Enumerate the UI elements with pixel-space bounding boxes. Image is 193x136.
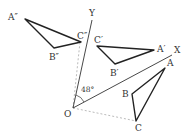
label-angle: 48° [81, 85, 95, 94]
triangle-a2b2c2 [25, 19, 81, 48]
label-a: A [166, 58, 174, 68]
label-b-double-prime: B″ [49, 52, 60, 62]
label-origin: O [64, 109, 71, 119]
dashed-line-o-c2 [73, 42, 80, 108]
label-axis-y: Y [88, 8, 96, 18]
label-c-double-prime: C″ [77, 31, 88, 41]
triangle-a1b1c1 [97, 46, 154, 64]
rotation-diagram: O X Y 48° A B C A′ B′ C′ A″ B″ C″ [0, 0, 193, 136]
label-c: C [135, 123, 142, 133]
label-axis-x: X [174, 45, 181, 55]
triangle-abc [132, 68, 165, 121]
angle-arc [76, 95, 84, 102]
label-a-double-prime: A″ [7, 12, 18, 22]
label-b: B [122, 89, 129, 99]
label-a-prime: A′ [156, 44, 166, 54]
label-c-prime: C′ [94, 35, 103, 45]
label-b-prime: B′ [110, 68, 119, 78]
diagram-svg: O X Y 48° A B C A′ B′ C′ A″ B″ C″ [0, 0, 193, 136]
dashed-line-o-c [73, 108, 136, 121]
